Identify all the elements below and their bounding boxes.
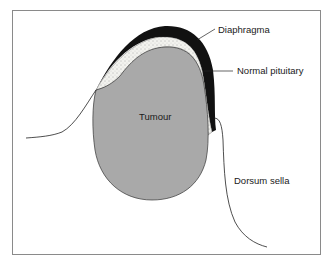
normal-pituitary-label: Normal pituitary: [237, 65, 304, 76]
sella-floor-line: [26, 90, 96, 138]
diaphragma-label: Diaphragma: [218, 24, 270, 35]
diaphragma-leader: [197, 29, 215, 40]
tumour-label: Tumour: [139, 111, 171, 122]
sella-diagram: Diaphragma Normal pituitary Tumour Dorsu…: [0, 0, 331, 270]
dorsum-sella-label: Dorsum sella: [234, 175, 290, 186]
